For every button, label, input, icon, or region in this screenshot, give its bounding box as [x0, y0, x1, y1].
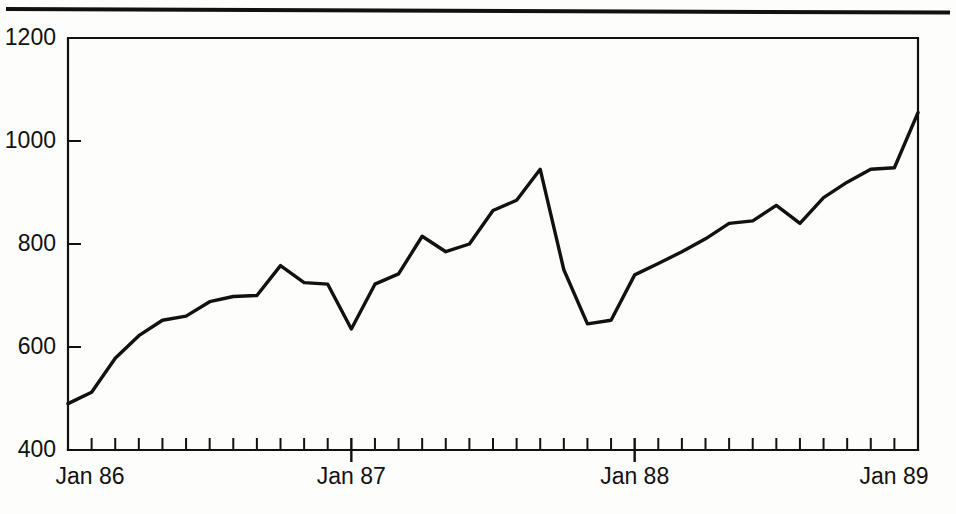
y-tick-label: 400 [18, 436, 56, 462]
x-tick-label: Jan 87 [317, 463, 386, 489]
x-tick-label: Jan 89 [859, 463, 928, 489]
x-tick-label: Jan 88 [600, 463, 669, 489]
data-series-line [68, 113, 918, 404]
plot-axes [68, 38, 918, 450]
y-axis-tick-labels: 40060080010001200 [5, 24, 56, 462]
x-tick-label: Jan 86 [55, 463, 124, 489]
y-tick-label: 1000 [5, 127, 56, 153]
line-chart: 40060080010001200 Jan 86Jan 87Jan 88Jan … [0, 0, 956, 514]
chart-page: 40060080010001200 Jan 86Jan 87Jan 88Jan … [0, 0, 956, 514]
y-tick-label: 1200 [5, 24, 56, 50]
y-tick-label: 800 [18, 230, 56, 256]
y-tick-label: 600 [18, 333, 56, 359]
x-axis-tick-labels: Jan 86Jan 87Jan 88Jan 89 [55, 463, 928, 489]
plot-frame [68, 38, 918, 450]
chart-svg: 40060080010001200 Jan 86Jan 87Jan 88Jan … [0, 0, 956, 514]
